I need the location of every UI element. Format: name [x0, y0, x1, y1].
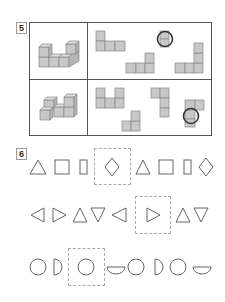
- half-circle-icon: [107, 267, 125, 274]
- circle-icon: [128, 259, 144, 275]
- sequence-row-3: [0, 0, 225, 302]
- circle-icon: [78, 259, 94, 275]
- circle-icon: [30, 259, 46, 275]
- half-circle-icon: [54, 259, 62, 275]
- circle-icon: [170, 259, 186, 275]
- half-circle-icon: [155, 259, 163, 275]
- half-circle-icon: [193, 267, 211, 274]
